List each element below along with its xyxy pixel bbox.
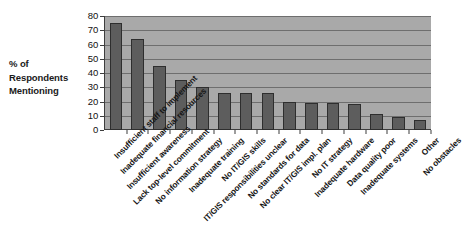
x-tick-slot <box>300 130 322 134</box>
bar-slot <box>235 16 257 130</box>
y-tick-label: 10 <box>72 111 98 121</box>
bar-chart-figure: % of Respondents Mentioning 010203040506… <box>0 0 472 251</box>
y-tick-label: 20 <box>72 97 98 107</box>
bar[interactable] <box>305 103 318 130</box>
bar[interactable] <box>414 120 427 130</box>
y-tick-label: 80 <box>72 11 98 21</box>
y-tick-mark <box>100 16 104 17</box>
bar-slot <box>387 16 409 130</box>
bar[interactable] <box>262 93 275 130</box>
y-tick-mark <box>100 73 104 74</box>
x-tick-slot <box>322 130 344 134</box>
bar[interactable] <box>218 93 231 130</box>
y-tick-mark <box>100 59 104 60</box>
y-tick-label: 30 <box>72 82 98 92</box>
bar-slot <box>366 16 388 130</box>
x-tick-slot <box>235 130 257 134</box>
bar-slot <box>257 16 279 130</box>
bar[interactable] <box>283 102 296 131</box>
x-axis-labels: Insufficient staff to implementInadequat… <box>105 136 431 248</box>
x-tick-slot <box>366 130 388 134</box>
bar[interactable] <box>131 39 144 130</box>
y-tick-label: 50 <box>72 54 98 64</box>
bar-slot <box>127 16 149 130</box>
x-tick-slot <box>257 130 279 134</box>
bar[interactable] <box>392 117 405 130</box>
y-tick-label: 70 <box>72 25 98 35</box>
y-tick-mark <box>100 116 104 117</box>
bar-slot <box>322 16 344 130</box>
x-tick-slot <box>105 130 127 134</box>
x-tick-mark <box>430 130 431 134</box>
bar-slot <box>279 16 301 130</box>
bar-slot <box>344 16 366 130</box>
x-tick-slot <box>409 130 431 134</box>
bar-slot <box>409 16 431 130</box>
bar[interactable] <box>348 104 361 130</box>
y-tick-label: 40 <box>72 68 98 78</box>
y-tick-label: 0 <box>72 125 98 135</box>
bar[interactable] <box>327 103 340 130</box>
bar-slot <box>105 16 127 130</box>
y-tick-mark <box>100 30 104 31</box>
bar-slot <box>192 16 214 130</box>
y-tick-label: 60 <box>72 40 98 50</box>
x-tick-slot <box>344 130 366 134</box>
bar-slot <box>214 16 236 130</box>
x-tick-slot <box>279 130 301 134</box>
y-tick-mark <box>100 87 104 88</box>
x-tick-slot <box>214 130 236 134</box>
bar[interactable] <box>370 114 383 130</box>
y-tick-mark <box>100 102 104 103</box>
bar[interactable] <box>240 93 253 130</box>
y-tick-mark <box>100 45 104 46</box>
y-tick-mark <box>100 130 104 131</box>
bar-slot <box>300 16 322 130</box>
x-tick-slot <box>387 130 409 134</box>
bar[interactable] <box>110 23 123 130</box>
